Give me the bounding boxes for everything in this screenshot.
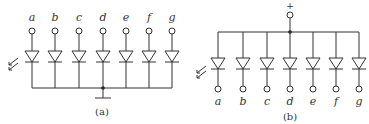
supply-terminal [287, 12, 293, 18]
diode-icon [211, 58, 225, 69]
terminal-label: c [76, 11, 82, 24]
segment-c: c [260, 32, 274, 108]
segment-d: d [283, 32, 297, 108]
terminal-label: f [146, 11, 153, 24]
terminal-c [264, 86, 270, 92]
light-emission-arrows-icon-a [9, 58, 18, 70]
diode-icon [119, 51, 133, 62]
diode-icon [165, 51, 179, 62]
diode-icon [283, 58, 297, 69]
caption-a: (a) [95, 106, 109, 117]
terminal-b [52, 28, 58, 34]
diode-icon [260, 58, 274, 69]
diode-icon [72, 51, 86, 62]
segment-e: e [119, 11, 133, 88]
diode-icon [96, 51, 110, 62]
diagram-a-common-cathode: abcdefg [25, 11, 179, 98]
led-segment-diagrams: abcdefg (a) abcdefg + (b) [0, 0, 369, 124]
supply-plus-label: + [286, 1, 294, 11]
segment-g: g [165, 11, 179, 88]
terminal-d [100, 28, 106, 34]
segment-a: a [25, 11, 39, 88]
terminal-label: a [29, 11, 36, 24]
terminal-d [287, 86, 293, 92]
terminal-a [215, 86, 221, 92]
terminal-label: b [51, 11, 58, 24]
segment-d: d [96, 11, 110, 88]
diode-icon [352, 58, 366, 69]
terminal-label: f [333, 95, 340, 108]
terminal-label: b [239, 95, 246, 108]
terminal-g [169, 28, 175, 34]
segment-f: f [142, 11, 156, 88]
terminal-b [240, 86, 246, 92]
diode-icon [329, 58, 343, 69]
segment-c: c [72, 11, 86, 88]
terminal-f [333, 86, 339, 92]
terminal-label: c [264, 95, 270, 108]
diode-icon [142, 51, 156, 62]
terminal-g [356, 86, 362, 92]
terminal-label: e [310, 95, 317, 108]
segment-e: e [306, 32, 320, 108]
terminal-label: d [286, 95, 293, 108]
caption-b: (b) [283, 111, 297, 122]
diode-icon [25, 51, 39, 62]
segment-a: a [211, 32, 225, 108]
terminal-f [146, 28, 152, 34]
terminal-label: d [99, 11, 106, 24]
segment-b: b [48, 11, 62, 88]
diode-icon [306, 58, 320, 69]
terminal-a [29, 28, 35, 34]
terminal-label: g [355, 95, 362, 108]
diode-icon [236, 58, 250, 69]
terminal-label: a [215, 95, 222, 108]
segment-g: g [352, 32, 366, 108]
segment-f: f [329, 32, 343, 108]
light-emission-arrows-icon-b [197, 66, 206, 78]
terminal-label: g [168, 11, 175, 24]
segment-b: b [236, 32, 250, 108]
diode-icon [48, 51, 62, 62]
terminal-e [123, 28, 129, 34]
terminal-label: e [123, 11, 130, 24]
diagram-b-common-anode: abcdefg [211, 12, 366, 108]
terminal-c [76, 28, 82, 34]
terminal-e [310, 86, 316, 92]
